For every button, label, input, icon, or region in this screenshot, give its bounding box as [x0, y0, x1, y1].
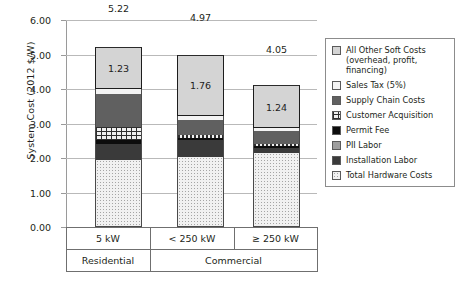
legend-item-supply-chain-costs[interactable]: Supply Chain Costs: [332, 95, 449, 105]
plot-area: 5.22 1.23 4.97 1.76 4.05: [66, 20, 317, 227]
segment-all-other-soft-costs: 1.23: [95, 47, 142, 89]
all-other-soft-costs-swatch-icon: [332, 46, 341, 55]
segment-all-other-soft-costs: 1.24: [253, 85, 300, 128]
segment-supply-chain-costs: [177, 120, 224, 136]
y-tick-mark: [61, 158, 66, 159]
legend-label-line3: financing): [346, 65, 387, 75]
segment-installation-labor: [95, 144, 142, 160]
category-label-5kw: 5 kW: [66, 227, 150, 249]
permit-fee-swatch-icon: [332, 126, 341, 135]
chart-legend: All Other Soft Costs(overhead, profit,fi…: [325, 38, 455, 187]
customer-acquisition-swatch-icon: [332, 111, 341, 120]
group-label-commercial: Commercial: [150, 249, 317, 271]
supply-chain-swatch-icon: [332, 96, 341, 105]
installation-labor-swatch-icon: [332, 156, 341, 165]
category-axis: 5 kW < 250 kW ≥ 250 kW Residential Comme…: [66, 227, 318, 272]
axis-divider: [317, 227, 318, 272]
category-label-lt250kw: < 250 kW: [150, 227, 234, 249]
total-hardware-swatch-icon: [332, 171, 341, 180]
y-tick-mark: [61, 124, 66, 125]
segment-total-hardware-costs: [177, 157, 224, 227]
legend-label: Supply Chain Costs: [346, 95, 425, 105]
y-tick-mark: [61, 89, 66, 90]
segment-installation-labor: [177, 140, 224, 157]
segment-supply-chain-costs: [95, 94, 142, 128]
segment-value-label: 1.24: [254, 101, 299, 112]
legend-label: Customer Acquisition: [346, 110, 433, 120]
legend-label: PII Labor: [346, 140, 382, 150]
segment-customer-acquisition: [95, 127, 142, 140]
axis-rule: [66, 271, 318, 272]
category-label-gte250kw: ≥ 250 kW: [234, 227, 317, 249]
segment-all-other-soft-costs: 1.76: [177, 55, 224, 116]
bar-commercial-gte250kw[interactable]: 1.24: [253, 85, 300, 227]
legend-item-permit-fee[interactable]: Permit Fee: [332, 125, 449, 135]
sales-tax-swatch-icon: [332, 81, 341, 90]
legend-label-line2: (overhead, profit,: [346, 55, 417, 65]
legend-label: Total Hardware Costs: [346, 170, 432, 180]
legend-label: Sales Tax (5%): [346, 80, 406, 90]
legend-label: Permit Fee: [346, 125, 389, 135]
legend-item-installation-labor[interactable]: Installation Labor: [332, 155, 449, 165]
pii-labor-swatch-icon: [332, 141, 341, 150]
legend-label-line1: All Other Soft Costs: [346, 45, 426, 55]
segment-value-label: 1.23: [96, 63, 141, 74]
bar-residential-5kw[interactable]: 1.23: [95, 47, 142, 227]
legend-item-pii-labor[interactable]: PII Labor: [332, 140, 449, 150]
y-tick-mark: [61, 20, 66, 21]
legend-item-all-other-soft-costs[interactable]: All Other Soft Costs(overhead, profit,fi…: [332, 45, 449, 75]
legend-item-total-hardware-costs[interactable]: Total Hardware Costs: [332, 170, 449, 180]
legend-item-sales-tax[interactable]: Sales Tax (5%): [332, 80, 449, 90]
bar-total-label: 4.05: [244, 44, 309, 55]
segment-total-hardware-costs: [95, 160, 142, 227]
legend-item-customer-acquisition[interactable]: Customer Acquisition: [332, 110, 449, 120]
segment-total-hardware-costs: [253, 153, 300, 227]
segment-value-label: 1.76: [178, 80, 223, 91]
bar-total-label: 4.97: [168, 12, 233, 23]
bar-total-label: 5.22: [86, 3, 151, 14]
segment-supply-chain-costs: [253, 131, 300, 144]
chart-figure: System Cost (2012 $/W) 6.00 5.00 4.00 3.…: [0, 0, 459, 290]
group-label-residential: Residential: [66, 249, 150, 271]
y-tick-mark: [61, 55, 66, 56]
legend-label: All Other Soft Costs(overhead, profit,fi…: [346, 45, 426, 75]
legend-label: Installation Labor: [346, 155, 417, 165]
y-tick-mark: [61, 193, 66, 194]
bar-commercial-lt250kw[interactable]: 1.76: [177, 55, 224, 227]
